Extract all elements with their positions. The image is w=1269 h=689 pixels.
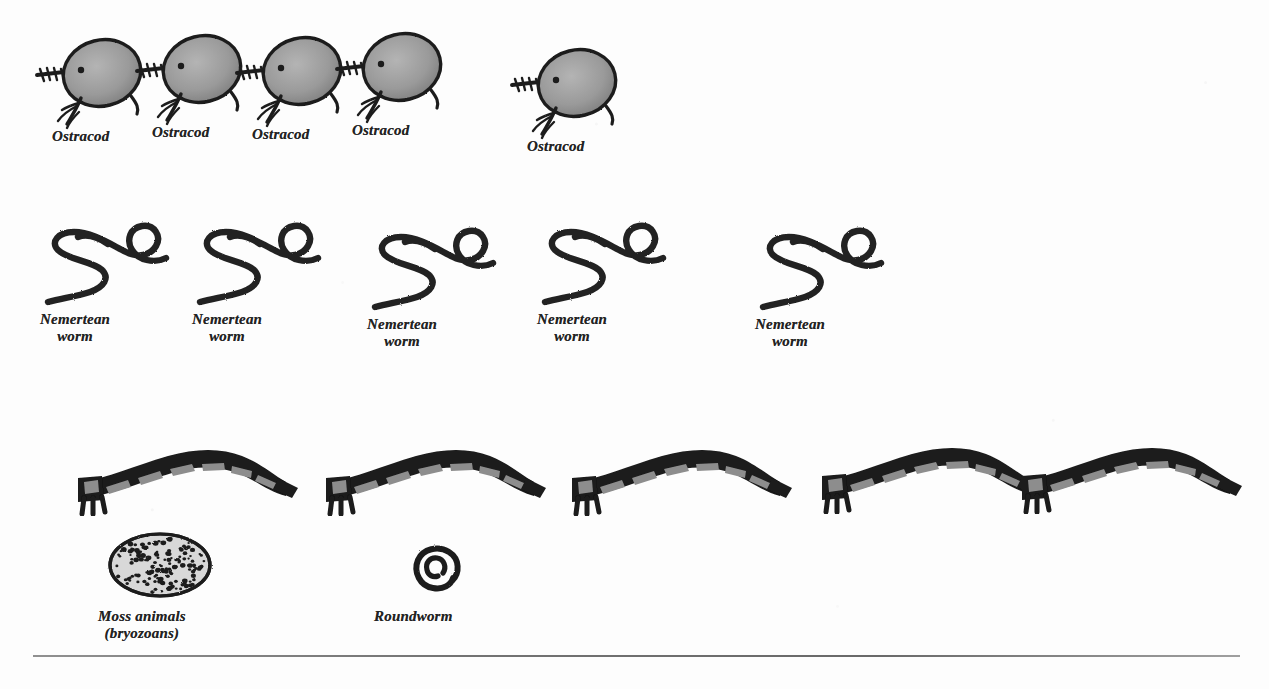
nemertean-worm-icon: [38, 206, 188, 314]
segmented-worm-figure: [566, 438, 796, 516]
segmented-worm-figure: [1016, 436, 1246, 514]
roundworm-figure: [408, 540, 468, 600]
horizontal-rule: [33, 655, 1240, 657]
nemertean-worm-figure: [190, 206, 340, 314]
ostracod-caption: Ostracod: [252, 126, 309, 143]
nemertean-worm-caption: Nemertean worm: [40, 311, 110, 345]
segmented-worm-icon: [566, 438, 796, 516]
nemertean-worm-icon: [365, 211, 515, 319]
nemertean-worm-figure: [38, 206, 188, 314]
nemertean-worm-caption: Nemertean worm: [367, 316, 437, 350]
segmented-worm-figure: [816, 436, 1046, 514]
nemertean-worm-figure: [535, 206, 685, 314]
roundworm-caption: Roundworm: [374, 608, 453, 625]
ostracod-icon: [508, 38, 626, 142]
nemertean-worm-caption: Nemertean worm: [192, 311, 262, 345]
nemertean-worm-figure: [753, 211, 903, 319]
segmented-worm-figure: [320, 438, 550, 516]
segmented-worm-icon: [72, 438, 302, 516]
segmented-worm-figure: [72, 438, 302, 516]
roundworm-icon: [408, 540, 468, 600]
ostracod-caption: Ostracod: [527, 138, 584, 155]
nemertean-worm-figure: [365, 211, 515, 319]
nemertean-worm-icon: [190, 206, 340, 314]
ostracod-caption: Ostracod: [52, 128, 109, 145]
segmented-worm-icon: [320, 438, 550, 516]
segmented-worm-icon: [816, 436, 1046, 514]
ostracod-figure: [333, 22, 451, 126]
nemertean-worm-caption: Nemertean worm: [755, 316, 825, 350]
moss-animals-figure: [104, 528, 216, 604]
ostracod-figure: [508, 38, 626, 142]
moss-animals-icon: [104, 528, 216, 604]
ostracod-caption: Ostracod: [352, 122, 409, 139]
moss-animals-caption: Moss animals (bryozoans): [98, 608, 186, 642]
nemertean-worm-caption: Nemertean worm: [537, 311, 607, 345]
ostracod-icon: [333, 22, 451, 126]
ostracod-caption: Ostracod: [152, 124, 209, 141]
nemertean-worm-icon: [535, 206, 685, 314]
illustration-plate: Ostracod Ostracod: [0, 0, 1269, 689]
nemertean-worm-icon: [753, 211, 903, 319]
segmented-worm-icon: [1016, 436, 1246, 514]
